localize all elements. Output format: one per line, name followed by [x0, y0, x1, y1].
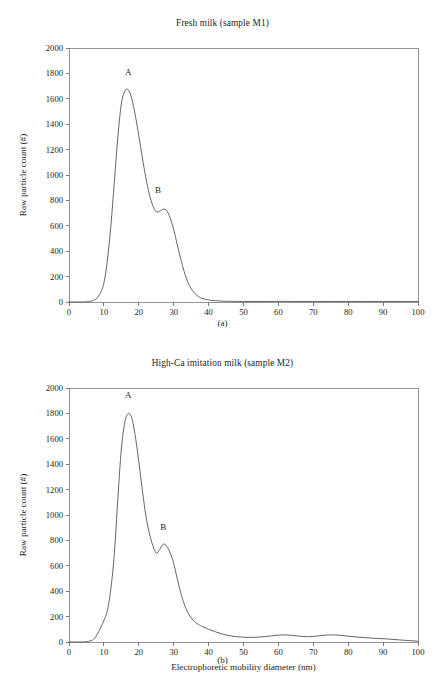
- y-tick-label: 1200: [46, 145, 63, 155]
- y-tick-label: 0: [59, 637, 63, 647]
- y-axis-title: Raw particle count (#): [18, 474, 28, 556]
- y-axis-title: Raw particle count (#): [18, 134, 28, 216]
- y-tick-label: 800: [50, 535, 63, 545]
- x-tick-label: 100: [412, 307, 425, 317]
- x-tick-label: 70: [309, 307, 318, 317]
- peak-annotation-b: B: [155, 185, 161, 195]
- y-tick-label: 1800: [46, 408, 63, 418]
- x-tick-label: 40: [204, 307, 213, 317]
- chart-panel-b: High-Ca imitation milk (sample M2) 02004…: [0, 358, 445, 680]
- y-tick-label: 600: [50, 221, 63, 231]
- panel-b-plot: 0200400600800100012001400160018002000010…: [0, 358, 445, 678]
- panel-a-sublabel: (a): [0, 318, 445, 328]
- peak-annotation-b: B: [160, 522, 166, 532]
- y-tick-label: 1600: [46, 434, 63, 444]
- x-tick-label: 30: [169, 307, 178, 317]
- y-tick-label: 800: [50, 195, 63, 205]
- x-tick-label: 50: [239, 307, 248, 317]
- panel-a-plot: 0200400600800100012001400160018002000010…: [0, 18, 445, 338]
- y-tick-label: 1800: [46, 68, 63, 78]
- y-tick-label: 2000: [46, 43, 63, 53]
- y-tick-label: 1400: [46, 459, 63, 469]
- y-tick-label: 600: [50, 561, 63, 571]
- peak-annotation-a: A: [125, 390, 132, 400]
- y-tick-label: 1200: [46, 485, 63, 495]
- y-tick-label: 200: [50, 612, 63, 622]
- peak-annotation-a: A: [125, 67, 132, 77]
- x-tick-label: 0: [67, 307, 71, 317]
- data-curve: [69, 89, 418, 302]
- x-tick-label: 90: [379, 307, 388, 317]
- plot-frame: [69, 388, 418, 642]
- y-tick-label: 1400: [46, 119, 63, 129]
- y-tick-label: 1000: [46, 170, 63, 180]
- figure-container: Fresh milk (sample M1) 02004006008001000…: [0, 0, 445, 685]
- data-curve: [69, 413, 418, 642]
- x-tick-label: 20: [135, 307, 144, 317]
- y-tick-label: 0: [59, 297, 63, 307]
- y-tick-label: 400: [50, 246, 63, 256]
- y-tick-label: 200: [50, 272, 63, 282]
- y-tick-label: 2000: [46, 383, 63, 393]
- y-tick-label: 400: [50, 586, 63, 596]
- chart-panel-a: Fresh milk (sample M1) 02004006008001000…: [0, 18, 445, 343]
- x-tick-label: 60: [274, 307, 283, 317]
- plot-frame: [69, 48, 418, 302]
- y-tick-label: 1600: [46, 94, 63, 104]
- x-tick-label: 80: [344, 307, 353, 317]
- x-tick-label: 10: [100, 307, 109, 317]
- y-tick-label: 1000: [46, 510, 63, 520]
- panel-b-sublabel: (b): [0, 655, 445, 665]
